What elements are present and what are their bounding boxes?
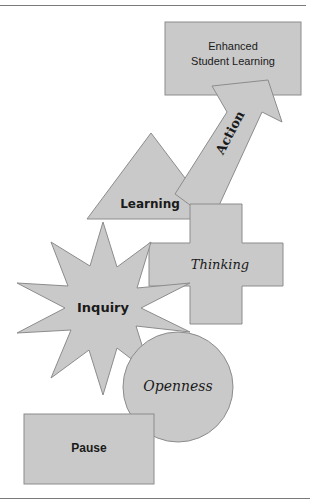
pause-label: Pause: [24, 441, 154, 455]
diagram-canvas: [0, 0, 314, 501]
openness-label: Openness: [128, 378, 228, 394]
enhanced-label-line2: Student Learning: [165, 55, 301, 67]
learning-label: Learning: [110, 197, 190, 211]
bottom-rule: [0, 498, 310, 499]
thinking-label: Thinking: [175, 257, 265, 272]
enhanced-label-line1: Enhanced: [165, 40, 301, 52]
inquiry-label: Inquiry: [63, 300, 143, 315]
